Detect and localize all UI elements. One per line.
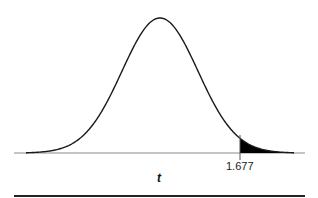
critical-value-label: 1.677 [226, 160, 254, 172]
t-distribution-chart [0, 0, 318, 198]
density-curve [26, 18, 294, 153]
x-axis-label: t [157, 171, 161, 185]
